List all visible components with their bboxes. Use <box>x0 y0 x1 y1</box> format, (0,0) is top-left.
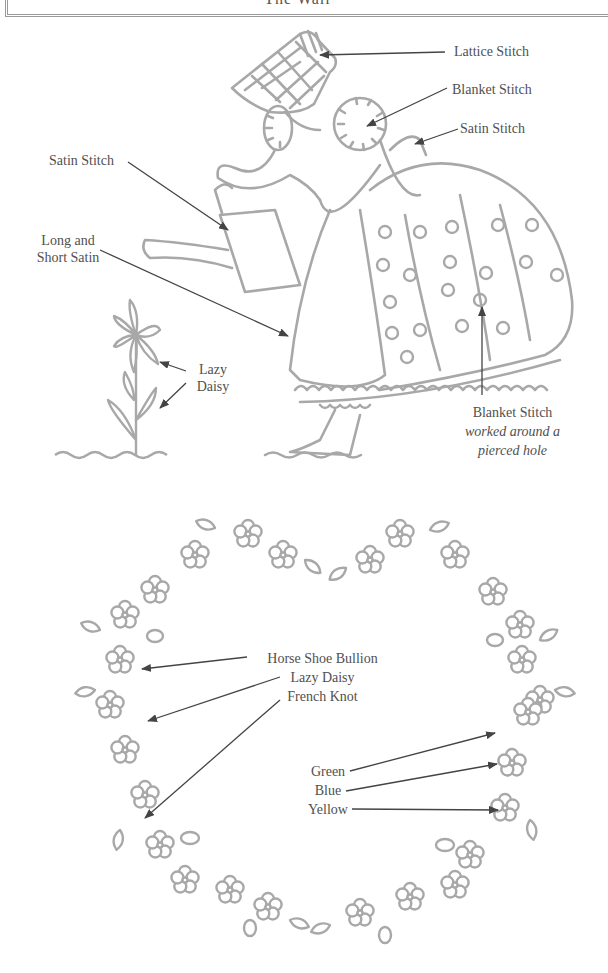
label-line-1: Long and <box>30 232 106 249</box>
label-blanket-stitch: Blanket Stitch <box>452 81 532 98</box>
label-blue: Blue <box>300 781 356 800</box>
label-lazy-daisy-flower: Lazy Daisy <box>190 361 236 395</box>
label-group-stitches: Horse Shoe Bullion Lazy Daisy French Kno… <box>250 649 395 706</box>
label-lazy-daisy: Lazy Daisy <box>250 668 395 687</box>
label-french-knot: French Knot <box>250 687 395 706</box>
floral-heart-wreath <box>75 517 576 943</box>
label-group-colors: Green Blue Yellow <box>300 762 356 819</box>
label-line-3: pierced hole <box>455 441 570 460</box>
label-horse-shoe-bullion: Horse Shoe Bullion <box>250 649 395 668</box>
label-line-2: worked around a <box>455 422 570 441</box>
label-long-short-satin: Long and Short Satin <box>30 232 106 266</box>
label-satin-stitch-left: Satin Stitch <box>49 152 114 169</box>
label-line-2: Daisy <box>190 378 236 395</box>
label-green: Green <box>300 762 356 781</box>
lazy-daisy-flower-illustration <box>55 300 167 458</box>
label-yellow: Yellow <box>300 800 356 819</box>
label-satin-stitch-right: Satin Stitch <box>460 120 525 137</box>
label-line-2: Short Satin <box>30 249 106 266</box>
label-line-1: Lazy <box>190 361 236 378</box>
label-blanket-stitch-hole: Blanket Stitch worked around a pierced h… <box>455 403 570 460</box>
label-line-1: Blanket Stitch <box>455 403 570 422</box>
label-lattice-stitch: Lattice Stitch <box>454 43 529 60</box>
